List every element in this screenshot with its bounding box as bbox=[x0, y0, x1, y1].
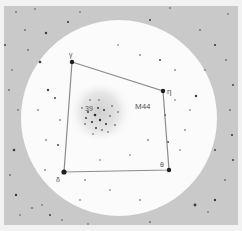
star-gamma bbox=[70, 60, 74, 64]
label-star-gamma: γ bbox=[69, 51, 73, 59]
label-star-eta: η bbox=[167, 87, 171, 96]
star-delta bbox=[61, 169, 66, 174]
label-cluster-star: 39 bbox=[85, 105, 93, 112]
cluster-glow bbox=[68, 80, 132, 144]
label-star-delta: δ bbox=[56, 176, 60, 183]
star-eta bbox=[161, 89, 165, 93]
label-star-theta: θ bbox=[160, 161, 164, 168]
label-cluster-name: M44 bbox=[135, 102, 151, 111]
finder-chart: γ η θ δ M44 39 bbox=[0, 0, 242, 231]
star-theta bbox=[167, 168, 171, 172]
